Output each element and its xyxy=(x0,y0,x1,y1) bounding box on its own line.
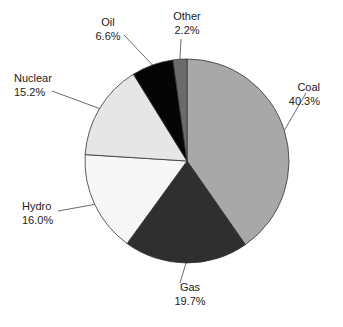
pie-slices xyxy=(85,59,289,263)
leader-line-oil xyxy=(124,35,152,65)
slice-label-coal: Coal40.3% xyxy=(289,81,320,107)
slice-label-gas: Gas19.7% xyxy=(174,281,205,307)
slice-label-nuclear: Nuclear15.2% xyxy=(14,72,52,98)
leader-line-hydro xyxy=(58,204,95,211)
pie-chart: Coal40.3%Gas19.7%Hydro16.0%Nuclear15.2%O… xyxy=(0,0,343,327)
slice-label-oil: Oil6.6% xyxy=(95,16,120,42)
slice-label-other: Other2.2% xyxy=(173,10,201,36)
leader-line-gas xyxy=(180,263,186,283)
leader-line-nuclear xyxy=(52,91,100,109)
leader-line-other xyxy=(180,39,181,59)
slice-label-hydro: Hydro16.0% xyxy=(22,200,53,226)
